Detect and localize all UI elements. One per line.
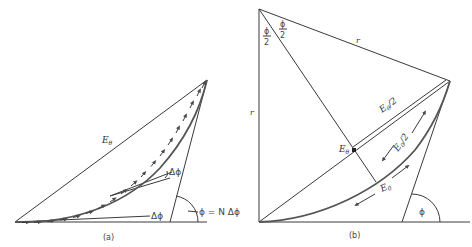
radius-top-label: r: [356, 36, 361, 45]
svg-text:ϕ: ϕ: [280, 20, 285, 29]
phi-angle-arc-b: [412, 194, 440, 222]
panel-a-caption: (a): [103, 233, 114, 242]
delta-phi-bottom-label: Δϕ: [151, 211, 163, 221]
panel-b: ϕ 2 ϕ 2 r r Eθ/2 Eθ E0/2 E0 ϕ (b): [250, 9, 470, 240]
phi-leader-a: [188, 211, 198, 212]
radius-left-label: r: [250, 108, 255, 117]
panel-a: Eθ Δϕ Δϕ ϕ = N Δϕ (a): [15, 80, 240, 242]
chord-point-label: Eθ: [338, 144, 350, 155]
half-angle-left-label: ϕ 2: [263, 27, 271, 47]
tangent-line-mid-1: [110, 172, 172, 196]
arc-half-label: E0/2: [391, 131, 412, 154]
radius-top-line: [259, 9, 450, 81]
phasor-diagram: Eθ Δϕ Δϕ ϕ = N Δϕ (a) ϕ: [0, 0, 472, 247]
total-angle-label: ϕ = N Δϕ: [199, 207, 240, 217]
svg-text:ϕ: ϕ: [264, 27, 269, 36]
half-angle-right-label: ϕ 2: [279, 20, 287, 40]
phi-label-b: ϕ: [419, 207, 425, 217]
delta-phi-top-label: Δϕ: [169, 167, 181, 177]
midpoint-marker: [352, 148, 356, 152]
resultant-label-a: Eθ: [101, 135, 113, 146]
phi-angle-arc-a: [176, 196, 198, 222]
bisector-line: [259, 9, 376, 182]
arc-half-arrow-up: [412, 112, 425, 133]
arc-full-arrow-up: [392, 166, 408, 178]
svg-text:2: 2: [264, 38, 269, 47]
arc-full-label: E0: [378, 180, 393, 195]
svg-text:2: 2: [280, 31, 285, 40]
arc-full-arrow-down: [356, 194, 375, 205]
chord-half-label: Eθ/2: [376, 95, 399, 116]
panel-b-caption: (b): [349, 231, 360, 240]
